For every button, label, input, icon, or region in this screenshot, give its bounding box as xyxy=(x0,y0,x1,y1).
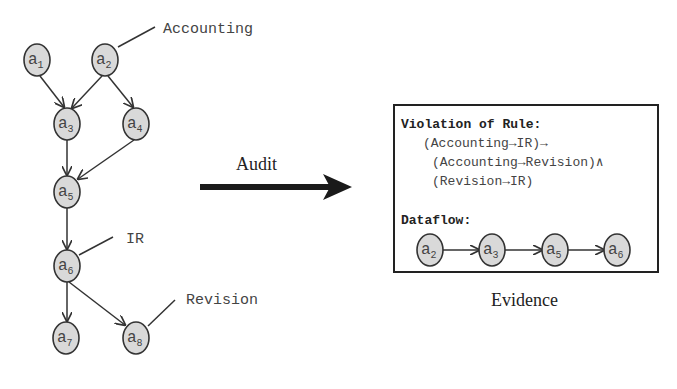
dataflow-node-a6: a6 xyxy=(604,234,630,266)
leader-revision xyxy=(148,300,175,326)
node-a6: a6 xyxy=(54,250,80,282)
edge-a1-a3 xyxy=(40,76,64,107)
rule-line-2: (Accounting→Revision)∧ xyxy=(432,155,604,170)
rule-line-1: (Accounting→IR)→ xyxy=(423,136,548,151)
node-a3: a3 xyxy=(54,108,80,140)
node-a8: a8 xyxy=(123,322,149,354)
audit-arrow-icon xyxy=(200,174,352,200)
edge-a4-a5 xyxy=(78,140,134,179)
edge-a2-a3 xyxy=(72,76,102,108)
rule-line-3: (Revision→IR) xyxy=(432,174,533,189)
rule-title: Violation of Rule: xyxy=(401,117,541,132)
leader-ir xyxy=(79,237,113,255)
dataflow-node-a2: a2 xyxy=(417,234,443,266)
edge-a2-a4 xyxy=(108,76,133,107)
diagram-root: Accounting IR Revision a1a2a3a4a5a6a7a8 … xyxy=(0,0,677,389)
node-a1: a1 xyxy=(24,44,50,76)
node-a5: a5 xyxy=(54,176,80,208)
dataflow-node-a5: a5 xyxy=(542,234,568,266)
label-ir: IR xyxy=(126,231,144,248)
leader-accounting xyxy=(118,27,155,47)
node-a4: a4 xyxy=(123,108,149,140)
dataflow-title: Dataflow: xyxy=(401,213,471,228)
node-a2: a2 xyxy=(92,44,118,76)
audit-label: Audit xyxy=(236,154,277,174)
edge-a6-a8 xyxy=(69,282,125,325)
dataflow-node-a3: a3 xyxy=(479,234,505,266)
graph-nodes: a1a2a3a4a5a6a7a8 xyxy=(24,44,149,354)
evidence-caption: Evidence xyxy=(491,290,558,310)
label-revision: Revision xyxy=(186,292,258,309)
graph-edges xyxy=(40,76,134,325)
node-a7: a7 xyxy=(53,322,79,354)
diagram-canvas: Accounting IR Revision a1a2a3a4a5a6a7a8 … xyxy=(0,0,677,389)
label-accounting: Accounting xyxy=(163,21,253,38)
